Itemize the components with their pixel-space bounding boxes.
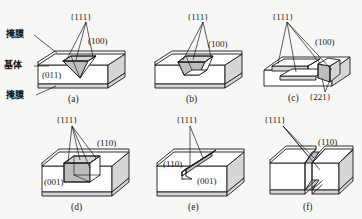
panel-c-surface-plane: (100) <box>315 38 335 47</box>
panel-b-sidewall-plane: {111} <box>187 13 208 22</box>
panel-c-geometry <box>264 22 350 92</box>
label-mask-bottom: 掩膜 <box>6 91 24 100</box>
panel-d-surface-plane: (001) <box>44 178 64 187</box>
panel-f-side-plane: (110) <box>318 138 337 147</box>
etching-profiles-figure: .ln { fill:none; stroke:#1a1a1a; stroke-… <box>0 0 362 219</box>
panel-a-surface-plane: (100) <box>88 37 108 46</box>
panel-e-sidewall-plane: {111} <box>176 116 197 125</box>
panel-b-geometry <box>155 22 242 88</box>
panel-e-side-plane: (110) <box>163 160 182 169</box>
panel-e-caption: (e) <box>188 203 199 213</box>
panel-a-side-plane: (011) <box>42 71 61 80</box>
panel-c-caption: (c) <box>288 94 299 104</box>
panel-c-sidewall-plane: {111} <box>272 13 293 22</box>
panel-b-surface-plane: (100) <box>208 40 228 49</box>
panel-f-caption: (f) <box>303 203 313 213</box>
panel-d-caption: (d) <box>71 203 82 213</box>
panel-f-sidewall-plane: {111} <box>264 116 285 125</box>
panel-c-extra-plane: {221} <box>309 93 331 102</box>
panel-e-surface-plane: (001) <box>197 177 217 186</box>
label-substrate: 基体 <box>4 61 22 70</box>
panel-a-caption: (a) <box>68 95 79 105</box>
panel-d-sidewall-plane: {111} <box>56 116 77 125</box>
panel-a-geometry <box>34 22 125 95</box>
panel-f-geometry <box>270 126 353 194</box>
label-mask-top: 掩膜 <box>6 30 24 39</box>
panel-d-side-plane: (110) <box>97 139 116 148</box>
panel-a-sidewall-plane: {111} <box>70 13 91 22</box>
panel-b-caption: (b) <box>186 95 197 105</box>
